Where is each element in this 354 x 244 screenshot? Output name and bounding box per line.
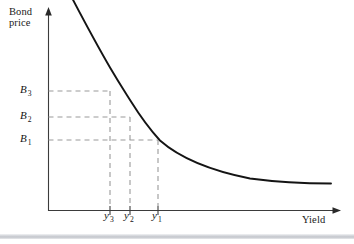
y-axis-arrowhead <box>45 7 52 16</box>
yield-label-y1-sub: 1 <box>157 215 162 224</box>
yield-label-y1: y1 <box>152 210 162 222</box>
yield-label-y3-sub: 3 <box>109 215 114 224</box>
price-label-B3: B3 <box>20 84 32 96</box>
price-label-B2: B2 <box>20 110 32 122</box>
price-label-B3-base: B <box>20 83 27 95</box>
x-axis-arrowhead <box>333 207 342 214</box>
bottom-horizontal-rule <box>0 234 354 239</box>
price-label-B1-base: B <box>20 132 27 144</box>
yield-label-y3: y3 <box>104 210 114 222</box>
y-axis-title: Bond price <box>9 6 32 29</box>
y-axis-title-line1: Bond <box>9 6 32 17</box>
price-yield-figure: Bond price Yield B3 B2 B1 y3 y2 y1 <box>0 0 354 244</box>
y-axis-title-line2: price <box>9 17 32 28</box>
yield-label-y2-sub: 2 <box>129 215 134 224</box>
x-axis-title: Yield <box>302 214 325 225</box>
price-label-B1-sub: 1 <box>27 138 32 147</box>
price-yield-plot <box>0 0 354 244</box>
price-label-B2-base: B <box>20 109 27 121</box>
yield-label-y2: y2 <box>124 210 134 222</box>
price-label-B2-sub: 2 <box>27 115 32 124</box>
price-label-B3-sub: 3 <box>27 89 32 98</box>
price-label-B1: B1 <box>20 133 32 145</box>
bond-price-curve <box>65 0 331 184</box>
